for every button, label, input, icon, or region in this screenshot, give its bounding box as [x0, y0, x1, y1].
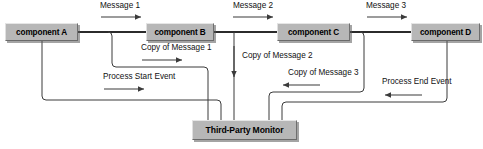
- arrow-copy-of-message-3: [283, 82, 320, 87]
- node-component-a[interactable]: component A: [5, 23, 78, 41]
- arrow-message-2: [233, 14, 273, 19]
- edge-label-copy-of-message-3: Copy of Message 3: [288, 69, 359, 77]
- edge-label-copy-of-message-2: Copy of Message 2: [242, 52, 313, 60]
- node-component-c-label: component C: [288, 28, 339, 37]
- node-component-b[interactable]: component B: [146, 23, 214, 41]
- edge-label-process-start-event: Process Start Event: [103, 73, 175, 81]
- edge-label-message-2: Message 2: [233, 2, 273, 10]
- edge-label-copy-of-message-1: Copy of Message 1: [141, 44, 212, 52]
- edge-label-message-1: Message 1: [100, 2, 140, 10]
- diagram-canvas: component A component B component C comp…: [0, 0, 483, 149]
- arrow-process-end-event: [385, 92, 422, 97]
- node-third-party-monitor[interactable]: Third-Party Monitor: [192, 120, 297, 140]
- arrow-message-3: [367, 14, 407, 19]
- node-component-d[interactable]: component D: [411, 23, 480, 41]
- node-component-c[interactable]: component C: [277, 23, 350, 41]
- node-third-party-monitor-label: Third-Party Monitor: [206, 125, 284, 135]
- node-component-a-label: component A: [16, 28, 67, 37]
- arrow-process-start-event: [104, 86, 144, 91]
- node-component-d-label: component D: [420, 28, 471, 37]
- edge-label-message-3: Message 3: [366, 2, 406, 10]
- arrow-message-1: [101, 14, 141, 19]
- node-component-b-label: component B: [154, 28, 205, 37]
- arrow-copy-of-message-1: [142, 57, 182, 62]
- edge-label-process-end-event: Process End Event: [382, 78, 452, 86]
